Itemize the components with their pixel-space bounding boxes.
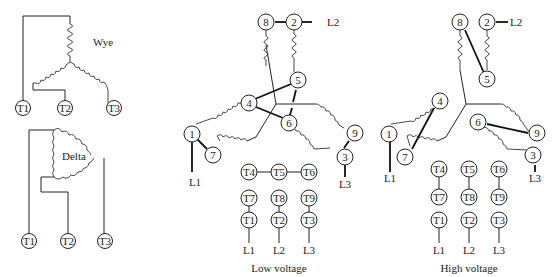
svg-text:L2: L2 — [463, 244, 475, 256]
svg-text:T1: T1 — [433, 214, 445, 226]
svg-text:L3: L3 — [303, 244, 316, 256]
svg-text:T7: T7 — [433, 191, 446, 203]
svg-text:T8: T8 — [273, 192, 286, 204]
svg-text:T2: T2 — [273, 214, 285, 226]
lv-l1-label: L1 — [189, 176, 201, 188]
svg-text:9: 9 — [534, 127, 540, 139]
lv-l2-label: L2 — [327, 16, 339, 28]
wye-terminal-t1: T1 — [16, 101, 31, 116]
wye-terminal-t2: T2 — [58, 101, 73, 116]
hv-l2-label: L2 — [510, 16, 522, 28]
motor-connection-diagram: Wye T1 T2 T3 Delta T1 T2 — [0, 0, 556, 277]
hv-node-4: 4 — [432, 93, 448, 109]
svg-text:4: 4 — [246, 97, 252, 109]
hv-node-2: 2 — [479, 14, 495, 30]
lv-connection-table: T4 T5 T6 T7 T8 T9 T1 T2 T3 L1 L2 L3 — [241, 164, 317, 256]
wye-terminal-t3: T3 — [107, 101, 122, 116]
svg-text:2: 2 — [291, 16, 297, 28]
lv-node-2: 2 — [286, 14, 302, 30]
low-voltage-caption: Low voltage — [251, 262, 306, 274]
svg-text:L1: L1 — [433, 244, 445, 256]
svg-text:T2: T2 — [463, 214, 475, 226]
delta-terminal-t3: T3 — [98, 234, 113, 249]
svg-text:T4: T4 — [433, 163, 446, 175]
svg-text:T2: T2 — [59, 102, 71, 114]
high-voltage-diagram: 8 2 5 4 6 1 7 9 3 L2 L1 L3 T4 T5 T6 T7 T… — [381, 14, 545, 274]
svg-text:T3: T3 — [493, 214, 506, 226]
svg-text:T4: T4 — [243, 166, 256, 178]
lv-node-9: 9 — [347, 125, 363, 141]
svg-text:T9: T9 — [493, 191, 506, 203]
svg-text:L1: L1 — [243, 244, 255, 256]
wye-diagram: Wye T1 T2 T3 — [16, 16, 122, 116]
lv-node-4: 4 — [241, 95, 257, 111]
svg-text:T1: T1 — [23, 235, 35, 247]
hv-node-1: 1 — [381, 126, 397, 142]
lv-node-7: 7 — [205, 147, 221, 163]
svg-text:T2: T2 — [62, 235, 74, 247]
svg-text:T5: T5 — [463, 163, 476, 175]
svg-text:1: 1 — [189, 128, 195, 140]
svg-text:7: 7 — [402, 151, 408, 163]
hv-connection-table: T4 T5 T6 T7 T8 T9 T1 T2 T3 L1 L2 L3 — [431, 161, 507, 256]
hv-l3-label: L3 — [529, 172, 542, 184]
lv-node-8: 8 — [258, 14, 274, 30]
svg-text:T7: T7 — [243, 192, 256, 204]
lv-node-3: 3 — [337, 149, 353, 165]
svg-text:3: 3 — [530, 149, 536, 161]
hv-l1-label: L1 — [384, 172, 396, 184]
hv-node-9: 9 — [529, 125, 545, 141]
svg-text:L2: L2 — [273, 244, 285, 256]
svg-text:T3: T3 — [99, 235, 112, 247]
svg-text:5: 5 — [295, 74, 301, 86]
delta-terminal-t1: T1 — [22, 234, 37, 249]
svg-text:8: 8 — [457, 16, 463, 28]
low-voltage-diagram: 8 2 5 4 6 1 7 9 3 L2 L1 L3 T4 T5 T6 T7 T… — [184, 14, 363, 274]
svg-text:L3: L3 — [493, 244, 506, 256]
svg-text:5: 5 — [484, 73, 490, 85]
svg-text:4: 4 — [437, 95, 443, 107]
delta-label: Delta — [62, 150, 86, 162]
svg-text:T1: T1 — [17, 102, 29, 114]
lv-node-1: 1 — [184, 126, 200, 142]
svg-text:6: 6 — [286, 117, 292, 129]
hv-node-6: 6 — [470, 114, 486, 130]
hv-node-7: 7 — [397, 149, 413, 165]
svg-text:8: 8 — [263, 16, 269, 28]
svg-text:T5: T5 — [273, 166, 286, 178]
lv-node-5: 5 — [290, 72, 306, 88]
svg-text:2: 2 — [484, 16, 490, 28]
svg-text:T8: T8 — [463, 191, 476, 203]
hv-node-5: 5 — [479, 71, 495, 87]
hv-node-3: 3 — [525, 147, 541, 163]
wye-label: Wye — [93, 36, 113, 48]
svg-text:T1: T1 — [243, 214, 255, 226]
svg-text:T6: T6 — [303, 166, 316, 178]
svg-text:T3: T3 — [108, 102, 121, 114]
svg-text:T3: T3 — [303, 214, 316, 226]
svg-text:3: 3 — [342, 151, 348, 163]
svg-text:T6: T6 — [493, 163, 506, 175]
high-voltage-caption: High voltage — [440, 262, 497, 274]
lv-l3-label: L3 — [339, 178, 352, 190]
svg-text:6: 6 — [475, 116, 481, 128]
delta-terminal-t2: T2 — [61, 234, 76, 249]
svg-text:7: 7 — [210, 149, 216, 161]
hv-node-8: 8 — [452, 14, 468, 30]
delta-diagram: Delta T1 T2 T3 — [22, 128, 113, 248]
svg-text:9: 9 — [352, 127, 358, 139]
svg-text:1: 1 — [386, 128, 392, 140]
lv-node-6: 6 — [281, 115, 297, 131]
svg-text:T9: T9 — [303, 192, 316, 204]
